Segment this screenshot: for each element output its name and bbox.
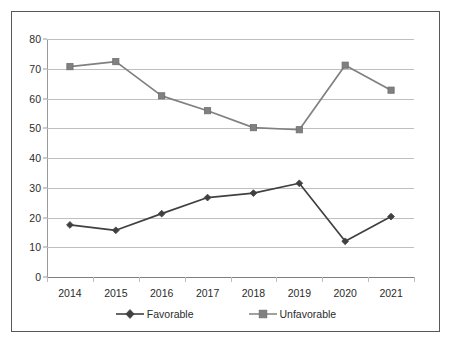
y-tick-label-0: 0: [35, 272, 41, 283]
x-tick-mark-1: [93, 277, 94, 282]
y-tick-label-50: 50: [29, 123, 41, 134]
x-tick-mark-6: [322, 277, 323, 282]
y-tick-label-60: 60: [29, 93, 41, 104]
y-tick-label-80: 80: [29, 34, 41, 45]
x-tick-label-2020: 2020: [334, 288, 357, 299]
data-point-unfavorable-2016[interactable]: [159, 93, 165, 99]
x-tick-label-2017: 2017: [196, 288, 219, 299]
data-point-unfavorable-2014[interactable]: [67, 64, 73, 70]
y-tick-label-40: 40: [29, 153, 41, 164]
y-tick-label-30: 30: [29, 183, 41, 194]
data-point-favorable-2016[interactable]: [158, 210, 165, 217]
data-point-favorable-2015[interactable]: [112, 227, 119, 234]
x-tick-label-2018: 2018: [242, 288, 265, 299]
series-unfavorable: [67, 59, 394, 133]
favorable-legend-marker-icon: [115, 308, 145, 320]
legend-label-unfavorable: Unfavorable: [280, 309, 337, 320]
unfavorable-legend-marker-icon: [248, 308, 278, 320]
legend-item-favorable[interactable]: Favorable: [115, 308, 194, 320]
legend-item-unfavorable[interactable]: Unfavorable: [248, 308, 337, 320]
x-tick-mark-0: [47, 277, 48, 282]
data-point-favorable-2014[interactable]: [67, 222, 74, 229]
data-point-unfavorable-2019[interactable]: [296, 127, 302, 133]
data-point-unfavorable-2021[interactable]: [388, 87, 394, 93]
data-point-favorable-2021[interactable]: [388, 213, 395, 220]
plot-area: 01020304050607080 2014201520162017201820…: [47, 39, 414, 277]
x-tick-label-2014: 2014: [58, 288, 81, 299]
x-tick-mark-4: [231, 277, 232, 282]
chart-frame: 01020304050607080 2014201520162017201820…: [11, 11, 440, 332]
x-tick-label-2015: 2015: [104, 288, 127, 299]
x-tick-mark-end: [414, 277, 415, 282]
x-tick-label-2021: 2021: [379, 288, 402, 299]
x-tick-label-2019: 2019: [288, 288, 311, 299]
chart-legend: Favorable Unfavorable: [12, 308, 439, 320]
data-point-unfavorable-2017[interactable]: [204, 108, 210, 114]
x-tick-mark-2: [139, 277, 140, 282]
x-tick-mark-7: [368, 277, 369, 282]
legend-label-favorable: Favorable: [147, 309, 194, 320]
y-tick-label-20: 20: [29, 212, 41, 223]
data-point-unfavorable-2015[interactable]: [113, 59, 119, 65]
x-tick-label-2016: 2016: [150, 288, 173, 299]
data-point-favorable-2018[interactable]: [250, 190, 257, 197]
series-layer: [47, 39, 414, 277]
data-point-unfavorable-2020[interactable]: [342, 62, 348, 68]
data-point-favorable-2017[interactable]: [204, 194, 211, 201]
x-tick-mark-5: [276, 277, 277, 282]
series-favorable: [67, 180, 395, 245]
x-tick-mark-3: [185, 277, 186, 282]
plot-wrapper: 01020304050607080 2014201520162017201820…: [12, 12, 441, 333]
series-line-favorable: [70, 183, 391, 241]
series-line-unfavorable: [70, 62, 391, 130]
y-tick-label-70: 70: [29, 64, 41, 75]
y-tick-label-10: 10: [29, 242, 41, 253]
data-point-unfavorable-2018[interactable]: [250, 125, 256, 131]
